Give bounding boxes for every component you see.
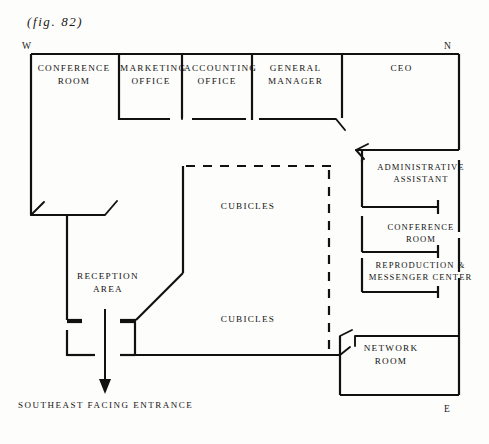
door-conference-west-swing-left: [31, 202, 44, 215]
door-conference-west-swing-right: [105, 201, 117, 215]
floor-plan-drawing: [0, 0, 489, 444]
door-generalmanager-swing: [336, 119, 345, 130]
entrance-arrow: [99, 309, 111, 394]
floor-plan-figure: (fig. 82) W N E: [0, 0, 489, 444]
entrance-annotation-label: SOUTHEAST FACING ENTRANCE: [18, 400, 193, 410]
door-network-swing-top: [340, 330, 352, 336]
door-network-swing-west: [340, 347, 350, 355]
